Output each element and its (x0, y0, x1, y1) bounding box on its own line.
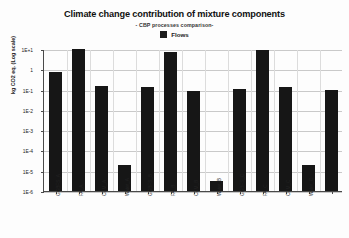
x-tick-label: CEM_C (286, 180, 291, 196)
bar (325, 90, 338, 191)
y-tick-mark (41, 50, 44, 51)
chart-legend: Flows (0, 31, 349, 38)
x-tick-label: Water_B (217, 178, 222, 196)
y-tick-mark (41, 131, 44, 132)
bar (256, 50, 269, 191)
y-tick-mark (41, 151, 44, 152)
x-tick-label: Water_C (309, 178, 314, 196)
vertical-gridline (90, 50, 91, 191)
vertical-gridline (136, 50, 137, 191)
chart-container: Climate change contribution of mixture c… (0, 0, 349, 238)
x-tick-label: GGBFS_B (148, 174, 153, 196)
vertical-gridline (228, 50, 229, 191)
x-tick-label: FA_C (263, 184, 268, 196)
legend-label-flows: Flows (171, 31, 189, 38)
vertical-gridline (205, 50, 206, 191)
y-tick-label: 1E-6 (0, 190, 33, 195)
y-tick-mark (41, 70, 44, 71)
vertical-gridline (67, 50, 68, 191)
x-tick-label: Water_A (125, 178, 130, 196)
x-tick-label: FA_B (171, 185, 176, 196)
bar (95, 86, 108, 191)
bar (72, 49, 85, 191)
y-tick-mark (41, 111, 44, 112)
bar (164, 52, 177, 191)
y-tick-label: 1 (0, 68, 33, 73)
vertical-gridline (159, 50, 160, 191)
vertical-gridline (182, 50, 183, 191)
bar (187, 91, 200, 192)
y-tick-label: 1E-5 (0, 169, 33, 174)
vertical-gridline (320, 50, 321, 191)
y-tick-mark (41, 192, 44, 193)
y-tick-mark (41, 172, 44, 173)
x-tick-label: GGBFS_C (240, 174, 245, 196)
x-tick-label: FA_A (79, 185, 84, 196)
plot-area: 1E+111E-11E-21E-31E-41E-51E-6 (43, 50, 342, 192)
x-tick-label: CEM_B (194, 180, 199, 196)
vertical-gridline (251, 50, 252, 191)
x-tick-label: CEM_A (102, 180, 107, 196)
vertical-gridline (297, 50, 298, 191)
vertical-gridline (113, 50, 114, 191)
y-tick-label: 1E-3 (0, 129, 33, 134)
y-tick-label: 1E-4 (0, 149, 33, 154)
chart-subtitle: - CBP processes comparison- (0, 22, 349, 28)
y-tick-label: 1E-2 (0, 108, 33, 113)
bar (279, 87, 292, 191)
y-tick-label: 1E-1 (0, 88, 33, 93)
vertical-gridline (274, 50, 275, 191)
y-tick-mark (41, 91, 44, 92)
y-tick-label: 1E+1 (0, 48, 33, 53)
chart-title: Climate change contribution of mixture c… (0, 9, 349, 19)
legend-swatch-flows (160, 31, 167, 38)
x-tick-mark (332, 191, 333, 194)
x-tick-label: GGBFS_A (56, 174, 61, 196)
